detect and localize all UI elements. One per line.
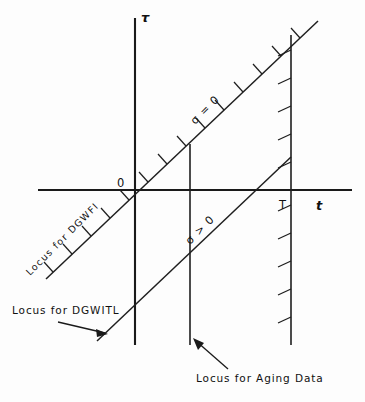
aging-arrow-head xyxy=(193,338,204,350)
sigma-greater-zero-line xyxy=(97,157,291,341)
origin-label: 0 xyxy=(117,176,124,190)
sigma-greater-zero-locus xyxy=(97,157,291,341)
dgwitl-locus-label: Locus for DGWITL xyxy=(12,304,119,316)
sigma-equals-zero-locus xyxy=(44,21,318,279)
aging-callout-arrow xyxy=(193,338,228,369)
figure-root: τ t 0 T σ = 0 σ > 0 Locus for DGWFI Locu… xyxy=(0,0,365,402)
sigma-greater-zero-label: σ > 0 xyxy=(183,213,217,247)
tau-axis-label: τ xyxy=(141,10,150,25)
dgwitl-callout-arrow xyxy=(58,322,108,337)
sigma-equals-zero-line xyxy=(46,21,318,279)
sigma-equals-zero-label: σ = 0 xyxy=(188,93,222,127)
aging-data-locus-label: Locus for Aging Data xyxy=(196,372,324,384)
t-equals-T-hatch-marks xyxy=(278,50,291,323)
axes-group xyxy=(38,18,352,345)
tau-t-locus-diagram: τ t 0 T σ = 0 σ > 0 Locus for DGWFI Locu… xyxy=(0,0,365,402)
T-tick-label: T xyxy=(278,198,287,212)
sigma-equals-zero-hatch-marks xyxy=(44,28,300,272)
t-axis-label: t xyxy=(316,198,323,213)
